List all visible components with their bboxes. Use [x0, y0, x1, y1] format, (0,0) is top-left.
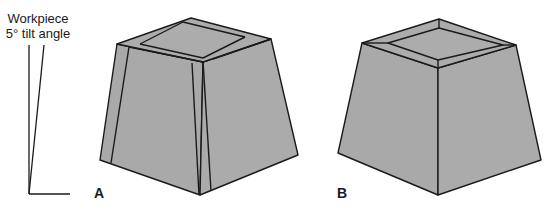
- figure-a-block: [100, 18, 298, 195]
- figure-a-label: A: [94, 185, 104, 201]
- figure-b-label: B: [337, 185, 347, 201]
- tilt-angle-indicator: [29, 45, 70, 194]
- tilted-line: [29, 45, 44, 194]
- figure-b-block: [338, 19, 541, 195]
- diagram-canvas: [0, 0, 550, 218]
